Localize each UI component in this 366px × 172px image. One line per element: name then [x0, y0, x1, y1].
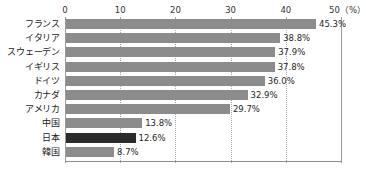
bar-track: 37.9%: [66, 45, 366, 59]
bar-row: ドイツ36.0%: [0, 74, 366, 88]
x-tick-20: 20: [170, 5, 181, 16]
category-label: ドイツ: [0, 74, 60, 88]
bar: [66, 104, 230, 114]
x-tick-30: 30: [225, 5, 236, 16]
bar: [66, 118, 142, 128]
bar-value-label: 29.7%: [230, 102, 260, 116]
bar: [66, 19, 316, 29]
bar-row: フランス45.3%: [0, 17, 366, 31]
bar-value-label: 8.7%: [114, 145, 139, 159]
bar-value-label: 13.8%: [142, 116, 172, 130]
bar-chart: ・・ ・ ・・・・・ ・・ 01020304050（%） フランス45.3%イタ…: [0, 0, 366, 172]
bar: [66, 90, 248, 100]
bar: [66, 147, 114, 157]
bar: [66, 133, 136, 143]
category-label: イギリス: [0, 60, 60, 74]
category-label: アメリカ: [0, 102, 60, 116]
category-label: 日本: [0, 131, 60, 145]
x-axis-tick-labels: 01020304050（%）: [0, 5, 366, 17]
category-label: フランス: [0, 17, 60, 31]
bar-row: 中国13.8%: [0, 116, 366, 130]
bar-track: 29.7%: [66, 102, 366, 116]
x-tick-10: 10: [115, 5, 126, 16]
bar-value-label: 37.8%: [275, 60, 305, 74]
bar-track: 8.7%: [66, 145, 366, 159]
bar-track: 32.9%: [66, 88, 366, 102]
bar-row: イギリス37.8%: [0, 60, 366, 74]
category-label: カナダ: [0, 88, 60, 102]
x-tick-50: 50（%）: [329, 5, 366, 16]
bar-row: イタリア38.8%: [0, 31, 366, 45]
bar: [66, 76, 265, 86]
bar-track: 38.8%: [66, 31, 366, 45]
bar-row: アメリカ29.7%: [0, 102, 366, 116]
category-label: 中国: [0, 116, 60, 130]
bar: [66, 62, 275, 72]
bar-rows: フランス45.3%イタリア38.8%スウェーデン37.9%イギリス37.8%ドイ…: [0, 17, 366, 159]
bar-value-label: 36.0%: [265, 74, 295, 88]
category-label: スウェーデン: [0, 45, 60, 59]
cropped-header-text: ・・ ・ ・・・・・ ・・: [196, 0, 289, 4]
bar: [66, 47, 275, 57]
bar-track: 13.8%: [66, 116, 366, 130]
bar-row: スウェーデン37.9%: [0, 45, 366, 59]
bar-value-label: 38.8%: [280, 31, 310, 45]
bar-track: 12.6%: [66, 131, 366, 145]
x-tick-0: 0: [62, 5, 67, 16]
bar-value-label: 45.3%: [316, 17, 346, 31]
bar: [66, 33, 280, 43]
bar-value-label: 32.9%: [248, 88, 278, 102]
bar-track: 37.8%: [66, 60, 366, 74]
bar-row: 韓国8.7%: [0, 145, 366, 159]
category-label: イタリア: [0, 31, 60, 45]
bar-value-label: 37.9%: [275, 45, 305, 59]
x-axis-baseline: [65, 161, 342, 162]
x-tick-40: 40: [280, 5, 291, 16]
bar-track: 36.0%: [66, 74, 366, 88]
bar-row: カナダ32.9%: [0, 88, 366, 102]
bar-track: 45.3%: [66, 17, 366, 31]
category-label: 韓国: [0, 145, 60, 159]
bar-value-label: 12.6%: [136, 131, 166, 145]
bar-row: 日本12.6%: [0, 131, 366, 145]
